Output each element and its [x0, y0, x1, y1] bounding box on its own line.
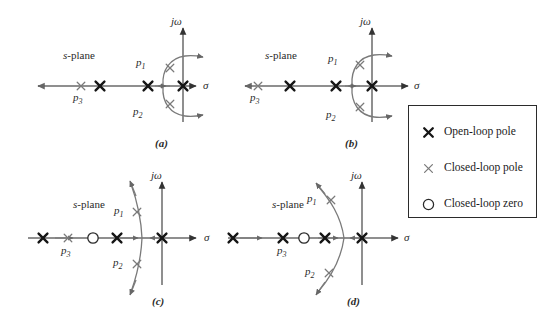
panel-a-caption: (a) [155, 138, 168, 149]
panel-a-p2-label: p2 [133, 106, 143, 120]
panel-b-sigma-label: σ [414, 80, 419, 91]
circle-marker-icon [422, 197, 435, 210]
panel-c-caption: (c) [152, 296, 164, 307]
panel-a-sigma-label: σ [203, 80, 208, 91]
panel-b-caption: (b) [345, 138, 358, 149]
legend-item-open-loop-pole: Open-loop pole [422, 123, 516, 139]
closed-loop-pole-marker [133, 208, 141, 216]
legend-label-closed-loop-pole: Closed-loop pole [444, 161, 523, 173]
panel-b-p3-label: p3 [250, 92, 260, 106]
closed-loop-pole-marker [166, 64, 174, 72]
panel-c-p2-label: p2 [113, 257, 123, 271]
bold-x-marker-icon [422, 125, 435, 138]
panel-d-caption: (d) [347, 296, 360, 307]
panel-c-p3-label: p3 [61, 245, 71, 259]
root-locus-figure: s-plane σ jω p1 p2 p3 (a) s-plane σ jω p… [0, 0, 547, 319]
closed-loop-zero-marker [88, 233, 98, 243]
panel-d-plane-label: s-plane [272, 199, 304, 210]
panel-c-sigma-label: σ [204, 232, 209, 243]
legend-label-open-loop-pole: Open-loop pole [444, 125, 516, 137]
panel-d-p1-label: p1 [307, 193, 317, 207]
panel-a-plane-label: s-plane [63, 50, 95, 61]
panel-a-p3-label: p3 [73, 92, 83, 106]
panel-a [38, 28, 203, 122]
panel-b-plane-label: s-plane [265, 50, 297, 61]
panel-d-p2-label: p2 [305, 266, 315, 280]
panel-b-jomega-label: jω [360, 16, 371, 27]
legend-label-closed-loop-zero: Closed-loop zero [444, 197, 523, 209]
panel-c [28, 181, 196, 295]
panel-c-plane-label: s-plane [73, 199, 105, 210]
panel-a-p1-label: p1 [136, 57, 146, 71]
closed-loop-zero-marker [299, 233, 309, 243]
legend-item-closed-loop-pole: Closed-loop pole [422, 159, 523, 175]
panel-c-p1-label: p1 [114, 205, 124, 219]
panel-d-sigma-label: σ [404, 232, 409, 243]
legend-item-closed-loop-zero: Closed-loop zero [422, 195, 523, 211]
panel-a-jomega-label: jω [171, 16, 182, 27]
panel-b-p1-label: p1 [328, 53, 338, 67]
panel-d-p3-label: p3 [277, 245, 287, 259]
light-x-marker-icon [422, 161, 435, 174]
panel-b-p2-label: p2 [326, 109, 336, 123]
panel-c-jomega-label: jω [151, 170, 162, 181]
closed-loop-pole-marker [166, 100, 174, 108]
legend-box: Open-loop pole Closed-loop pole Closed-l… [408, 105, 537, 218]
closed-loop-pole-marker [133, 260, 141, 268]
panel-d-jomega-label: jω [351, 170, 362, 181]
